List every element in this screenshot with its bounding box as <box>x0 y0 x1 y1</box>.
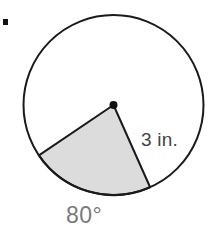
shaded-sector <box>39 105 150 195</box>
circle-sector-diagram <box>0 0 210 232</box>
circle-center-point <box>110 101 118 109</box>
geometry-figure: 3 in. 80° <box>0 0 210 232</box>
central-angle-label: 80° <box>66 204 102 227</box>
radius-label: 3 in. <box>141 130 178 149</box>
